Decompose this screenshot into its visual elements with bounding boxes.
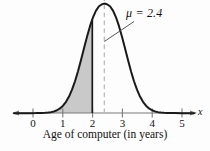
normal-distribution-figure: 0 1 2 3 4 5 x μ = 2.4 Age of computer (i… (0, 0, 210, 151)
x-axis-caption: Age of computer (in years) (0, 128, 210, 140)
x-axis-variable-label: x (198, 106, 202, 117)
mean-annotation-label: μ = 2.4 (126, 6, 163, 21)
shaded-area-left-of-2 (33, 20, 92, 113)
